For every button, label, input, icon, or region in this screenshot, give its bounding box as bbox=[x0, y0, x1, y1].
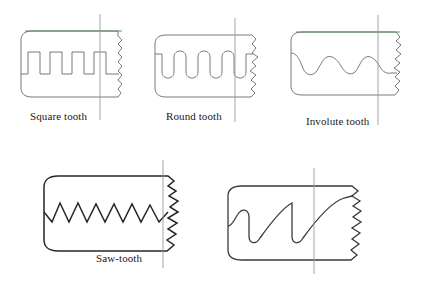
label-round-tooth: Round tooth bbox=[166, 111, 222, 122]
involute-tooth-body-outline bbox=[291, 32, 401, 95]
profile-round-tooth bbox=[155, 18, 258, 122]
label-saw-tooth: Saw-tooth bbox=[96, 253, 142, 264]
saw-tooth-profile-line bbox=[44, 203, 168, 222]
square-tooth-body-outline bbox=[21, 31, 122, 97]
asymmetric-tooth-profile-line bbox=[228, 196, 352, 243]
asymmetric-tooth-body-outline bbox=[228, 186, 361, 260]
gear-tooth-profiles-figure bbox=[0, 0, 433, 286]
label-involute-tooth: Involute tooth bbox=[306, 116, 369, 127]
saw-tooth-body-outline bbox=[44, 176, 178, 251]
round-tooth-profile-line bbox=[155, 51, 253, 78]
profile-asymmetric-tooth bbox=[228, 168, 361, 274]
profile-square-tooth bbox=[21, 14, 122, 120]
involute-tooth-profile-line bbox=[291, 53, 397, 75]
round-tooth-body-outline bbox=[155, 35, 258, 97]
profile-involute-tooth bbox=[291, 15, 401, 125]
label-square-tooth: Square tooth bbox=[30, 111, 87, 122]
square-tooth-profile-line bbox=[21, 52, 119, 74]
